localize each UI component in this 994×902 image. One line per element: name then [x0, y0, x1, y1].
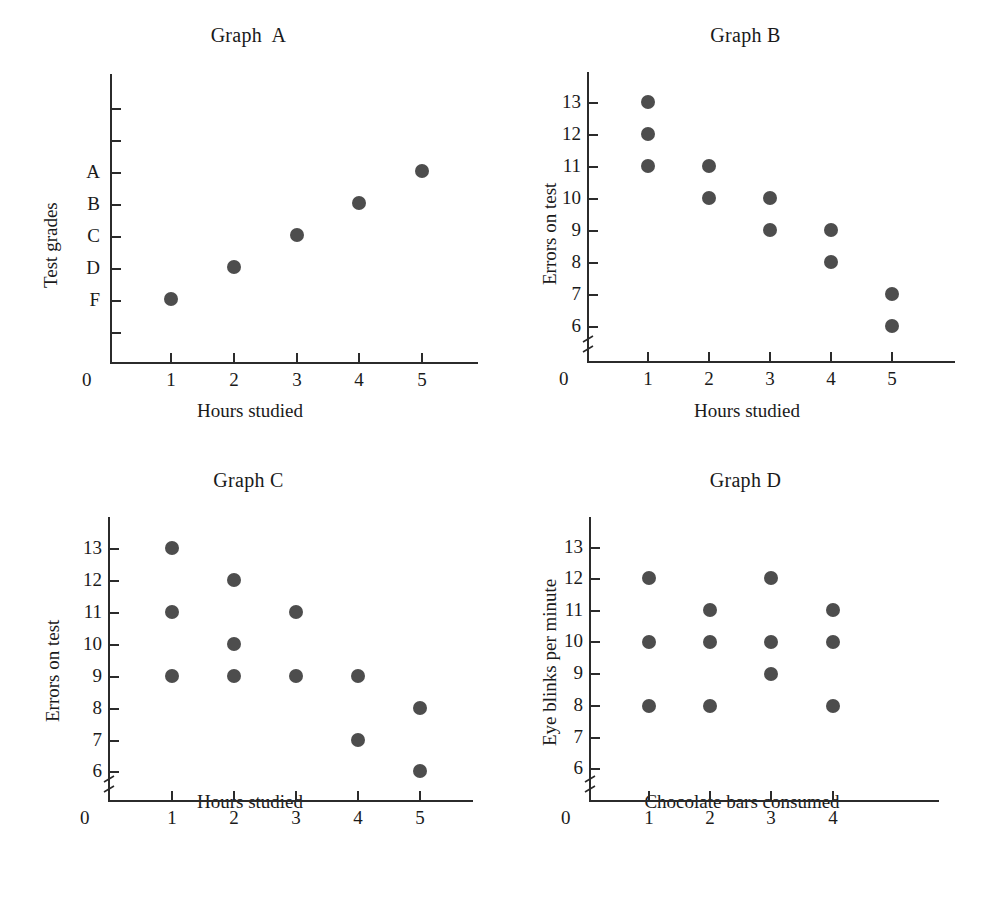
panel-c-x-ticklabel-3: 3 [276, 807, 316, 829]
data-point [351, 669, 365, 683]
panel-b-x-tick-2 [708, 352, 710, 361]
panel-c-y-tick-12 [110, 580, 119, 582]
panel-a-y-ticklabel-b: B [62, 193, 100, 215]
panel-c-y-tick-9 [110, 676, 119, 678]
panel-d-x-axis [589, 800, 939, 802]
data-point [703, 603, 717, 617]
panel-d-origin-label: 0 [561, 807, 571, 829]
panel-b-y-ticklabel-6: 6 [533, 315, 581, 337]
panel-b-y-ticklabel-13: 13 [533, 91, 581, 113]
panel-a-y-tick-d [112, 268, 121, 270]
panel-c-y-ticklabel-11: 11 [54, 601, 102, 623]
panel-d-y-tick-7 [591, 737, 600, 739]
panel-c-x-ticklabel-1: 1 [152, 807, 192, 829]
data-point [764, 635, 778, 649]
panel-b-y-tick-12 [589, 134, 598, 136]
panel-c-y-ticklabel-6: 6 [54, 760, 102, 782]
panel-a-y-tick-a [112, 172, 121, 174]
panel-graph-c: Graph C Errors on test Hours studied 13 … [0, 451, 497, 902]
data-point [826, 635, 840, 649]
panel-a-y-ticklabel-a: A [62, 161, 100, 183]
data-point [413, 701, 427, 715]
panel-a-x-tick-5 [421, 353, 423, 362]
panel-d-x-ticklabel-2: 2 [690, 807, 730, 829]
data-point [290, 228, 304, 242]
panel-a-x-tick-3 [296, 353, 298, 362]
data-point [164, 292, 178, 306]
data-point [642, 571, 656, 585]
panel-d-y-ticklabel-12: 12 [535, 567, 583, 589]
panel-b-x-axis [587, 361, 955, 363]
panel-b-origin-label: 0 [559, 368, 569, 390]
panel-b-y-tick-11 [589, 166, 598, 168]
panel-d-y-tick-9 [591, 673, 600, 675]
panel-d-y-ticklabel-9: 9 [535, 662, 583, 684]
panel-a-x-ticklabel-1: 1 [151, 369, 191, 391]
panel-d-x-tick-2 [709, 791, 711, 800]
data-point [352, 196, 366, 210]
panel-a-y-ticklabel-d: D [62, 257, 100, 279]
data-point [227, 573, 241, 587]
panel-b-y-ticklabel-9: 9 [533, 219, 581, 241]
panel-b-x-ticklabel-4: 4 [811, 368, 851, 390]
data-point [826, 699, 840, 713]
panel-c-x-tick-5 [419, 791, 421, 800]
panel-a-title: Graph A [0, 24, 497, 47]
data-point [824, 255, 838, 269]
panel-c-y-ticklabel-9: 9 [54, 665, 102, 687]
panel-b-x-ticklabel-5: 5 [872, 368, 912, 390]
scatterplot-figure: Graph A Test grades Hours studied A B C … [0, 0, 994, 902]
data-point [227, 260, 241, 274]
panel-c-y-axis [108, 517, 110, 801]
panel-c-y-ticklabel-8: 8 [54, 697, 102, 719]
panel-a-y-tick-f [112, 300, 121, 302]
panel-b-y-tick-8 [589, 262, 598, 264]
panel-b-y-tick-7 [589, 294, 598, 296]
data-point [289, 605, 303, 619]
panel-d-x-ticklabel-4: 4 [813, 807, 853, 829]
panel-c-x-axis [108, 800, 473, 802]
panel-a-x-tick-1 [170, 353, 172, 362]
panel-b-x-tick-3 [769, 352, 771, 361]
panel-b-y-ticklabel-11: 11 [533, 155, 581, 177]
panel-a-y-axis-label: Test grades [40, 202, 62, 288]
data-point [703, 699, 717, 713]
panel-c-y-ticklabel-12: 12 [54, 569, 102, 591]
panel-d-y-ticklabel-6: 6 [535, 757, 583, 779]
panel-c-y-tick-11 [110, 612, 119, 614]
panel-d-y-ticklabel-13: 13 [535, 536, 583, 558]
panel-a-y-tick [112, 108, 121, 110]
panel-a-x-axis [110, 362, 478, 364]
panel-b-y-ticklabel-7: 7 [533, 283, 581, 305]
data-point [885, 319, 899, 333]
panel-b-x-ticklabel-2: 2 [689, 368, 729, 390]
panel-a-x-ticklabel-4: 4 [339, 369, 379, 391]
panel-d-y-ticklabel-7: 7 [535, 726, 583, 748]
data-point [413, 764, 427, 778]
panel-d-title: Graph D [497, 469, 994, 492]
data-point [702, 191, 716, 205]
data-point [764, 667, 778, 681]
data-point [702, 159, 716, 173]
data-point [826, 603, 840, 617]
panel-d-y-tick-10 [591, 641, 600, 643]
data-point [165, 605, 179, 619]
panel-a-y-tick [112, 140, 121, 142]
panel-b-y-ticklabel-10: 10 [533, 187, 581, 209]
panel-c-x-ticklabel-4: 4 [338, 807, 378, 829]
data-point [763, 191, 777, 205]
panel-b-y-tick-9 [589, 230, 598, 232]
data-point [642, 635, 656, 649]
panel-c-x-tick-4 [357, 791, 359, 800]
panel-c-y-tick-13 [110, 548, 119, 550]
panel-d-y-tick-11 [591, 610, 600, 612]
panel-d-x-tick-3 [770, 791, 772, 800]
panel-a-y-ticklabel-f: F [62, 289, 100, 311]
y-axis-break-icon [582, 773, 598, 795]
panel-graph-a: Graph A Test grades Hours studied A B C … [0, 0, 497, 451]
panel-c-title: Graph C [0, 469, 497, 492]
panel-d-y-tick-8 [591, 705, 600, 707]
panel-c-x-ticklabel-5: 5 [400, 807, 440, 829]
panel-b-y-axis [587, 72, 589, 362]
data-point [227, 637, 241, 651]
